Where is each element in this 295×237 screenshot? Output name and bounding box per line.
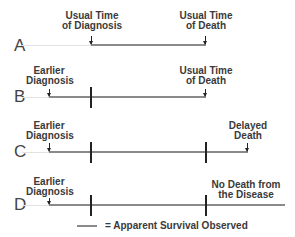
usual-death-tick: [205, 195, 207, 216]
survival-line-a: [91, 44, 206, 46]
delayed-death-label-c: Delayed Death: [228, 121, 268, 141]
survival-line-d: [49, 204, 285, 206]
survival-line-c: [49, 151, 248, 153]
baseline-a: [22, 45, 92, 46]
usual-diagnosis-tick: [90, 195, 92, 216]
usual-diagnosis-tick: [90, 142, 92, 163]
usual-death-tick: [205, 142, 207, 163]
baseline-c: [22, 152, 50, 153]
label-line: the Disease: [210, 190, 282, 200]
earlier-diagnosis-label-c: Earlier Diagnosis: [26, 121, 72, 141]
diagnosis-arrow-icon: [91, 36, 92, 44]
usual-diagnosis-tick: [90, 87, 92, 108]
no-death-label-d: No Death from the Disease: [210, 180, 282, 200]
lead-time-bias-diagram: A Usual Time of Diagnosis Usual Time of …: [0, 0, 295, 237]
legend: = Apparent Survival Observed: [77, 220, 248, 231]
label-line: Diagnosis: [26, 76, 72, 86]
label-line: Diagnosis: [26, 131, 72, 141]
usual-death-label-b: Usual Time of Death: [176, 66, 236, 86]
row-letter-a: A: [14, 36, 25, 56]
death-arrow-icon: [205, 36, 206, 44]
diagnosis-arrow-icon: [49, 143, 50, 151]
baseline-b: [22, 97, 50, 98]
label-line: of Diagnosis: [62, 21, 122, 31]
death-arrow-icon: [247, 143, 248, 151]
death-arrow-icon: [205, 89, 206, 96]
legend-line-swatch: [77, 225, 97, 227]
earlier-diagnosis-label-d: Earlier Diagnosis: [26, 177, 72, 197]
label-line: Diagnosis: [26, 187, 72, 197]
label-line: of Death: [176, 76, 236, 86]
baseline-d: [22, 205, 50, 206]
label-line: Death: [228, 131, 268, 141]
label-line: of Death: [176, 21, 236, 31]
legend-text: = Apparent Survival Observed: [105, 220, 248, 231]
diagnosis-arrow-icon: [49, 198, 50, 204]
earlier-diagnosis-label-b: Earlier Diagnosis: [26, 66, 72, 86]
diagnosis-arrow-icon: [49, 89, 50, 96]
usual-diagnosis-label-a: Usual Time of Diagnosis: [62, 11, 122, 31]
usual-death-label-a: Usual Time of Death: [176, 11, 236, 31]
survival-line-b: [49, 96, 206, 98]
